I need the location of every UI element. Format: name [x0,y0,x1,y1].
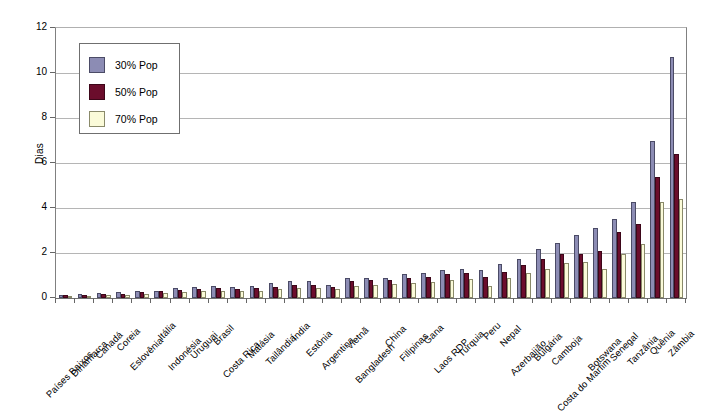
x-tick-mark [380,298,381,303]
bar-group [476,28,495,298]
x-axis-category-label-text: Gana [421,322,445,346]
bar-group [304,28,323,298]
legend-item-70-pop: 70% Pop [89,106,179,131]
bar [354,286,359,298]
x-tick-mark [150,298,151,303]
bar-group [285,28,304,298]
x-tick-mark [189,298,190,303]
x-axis-category-label-text: Vietnã [344,324,371,351]
legend-swatch-70-pop [89,111,105,127]
bar [660,202,665,298]
bar [221,291,226,298]
bar-group [591,28,610,298]
bar [163,293,168,298]
bar-group [190,28,209,298]
bar [87,296,92,298]
bar [68,296,73,298]
y-tick-label: 6 [21,156,47,167]
bar-group [457,28,476,298]
x-tick-mark [475,298,476,303]
bar [316,288,321,298]
bar-group [266,28,285,298]
bar [641,244,646,298]
x-axis-category-label-text: Costa do Marfim [555,355,613,413]
bar [679,199,684,298]
x-tick-mark [112,298,113,303]
bar-group [552,28,571,298]
y-tick-label: 12 [21,21,47,32]
legend-label-50-pop: 50% Pop [115,86,158,98]
x-tick-mark [666,298,667,303]
bar [144,294,149,298]
x-tick-mark [55,298,56,303]
bar [335,289,340,298]
bar-group [571,28,590,298]
x-tick-mark [170,298,171,303]
x-tick-mark [628,298,629,303]
bar-group [361,28,380,298]
bar [469,279,474,298]
bar [545,269,550,298]
x-tick-mark [284,298,285,303]
legend-item-30-pop: 30% Pop [89,52,179,77]
y-tick-label: 4 [21,201,47,212]
x-tick-mark [570,298,571,303]
bar-group [667,28,686,298]
bar [392,284,397,298]
x-tick-mark [303,298,304,303]
bar [450,280,455,298]
y-tick-label: 8 [21,111,47,122]
x-tick-mark [399,298,400,303]
x-tick-mark [494,298,495,303]
bar [526,273,531,298]
x-tick-mark [227,298,228,303]
bar [488,286,493,298]
bar [201,291,206,298]
x-tick-mark [551,298,552,303]
x-tick-mark [418,298,419,303]
x-tick-mark [532,298,533,303]
x-tick-mark [609,298,610,303]
legend-label-70-pop: 70% Pop [115,113,158,125]
bar [278,289,283,298]
bar-group [629,28,648,298]
x-axis-category-label: Vietnã [363,305,390,332]
bar-group [648,28,667,298]
chart-legend: 30% Pop 50% Pop 70% Pop [79,43,180,134]
x-axis-category-label: Índia [304,305,327,328]
bar-group [209,28,228,298]
bar-group [323,28,342,298]
bar [431,282,436,298]
x-axis-category-label: Nepal [515,305,541,331]
x-tick-mark [265,298,266,303]
x-tick-mark [131,298,132,303]
bar [106,295,111,298]
y-tick-label: 2 [21,246,47,257]
x-tick-mark [74,298,75,303]
bar-group [610,28,629,298]
bar-group [438,28,457,298]
x-tick-mark [590,298,591,303]
y-tick-label: 0 [21,291,47,302]
bar [583,262,588,298]
legend-swatch-30-pop [89,57,105,73]
bar [240,291,245,298]
bar-group [56,28,75,298]
bar [621,254,626,298]
x-tick-mark [456,298,457,303]
x-tick-mark [322,298,323,303]
bar [297,288,302,298]
bar [182,292,187,298]
x-tick-mark [513,298,514,303]
y-axis-title: Dias [34,124,45,184]
bar-group [400,28,419,298]
x-axis-category-label: Gana [438,305,462,329]
bar-group [247,28,266,298]
x-tick-mark [685,298,686,303]
bar-group [228,28,247,298]
x-tick-mark [360,298,361,303]
bar [259,291,264,298]
bar-group [419,28,438,298]
bar [507,278,512,298]
